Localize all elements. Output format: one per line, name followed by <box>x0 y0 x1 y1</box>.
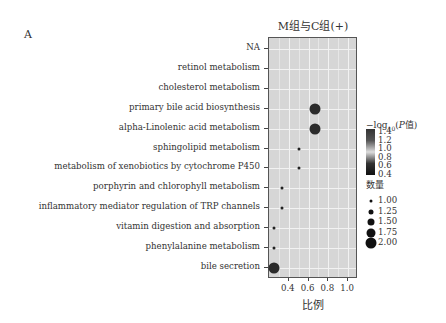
size-legend-label: 1.25 <box>378 206 397 216</box>
size-legend-title: 数量 <box>366 178 384 191</box>
y-tick-label: inflammatory mediator regulation of TRP … <box>39 201 260 211</box>
data-point <box>272 227 275 230</box>
panel-label: A <box>24 28 32 41</box>
y-tick-label: sphingolipid metabolism <box>153 142 260 152</box>
size-legend-dot <box>368 219 375 226</box>
y-tick-label: NA <box>246 42 260 52</box>
vertical-gridline <box>279 38 280 277</box>
data-point <box>310 103 321 114</box>
vertical-gridline <box>299 38 300 277</box>
horizontal-gridline <box>269 49 356 50</box>
size-legend-label: 1.00 <box>378 195 397 205</box>
y-tick-label: cholesterol metabolism <box>158 82 260 92</box>
vertical-gridline <box>318 38 319 277</box>
horizontal-gridline <box>269 149 356 150</box>
size-legend-dot <box>367 228 376 237</box>
horizontal-gridline <box>269 168 356 169</box>
vertical-gridline <box>328 38 329 277</box>
size-legend-label: 2.00 <box>378 237 397 247</box>
y-tick-label: porphyrin and chlorophyll metabolism <box>93 181 260 191</box>
data-point <box>280 207 283 210</box>
plot-area <box>268 37 357 278</box>
vertical-gridline <box>289 38 290 277</box>
colorbar <box>366 129 375 175</box>
horizontal-gridline <box>269 268 356 269</box>
y-tick-label: vitamin digestion and absorption <box>116 221 260 231</box>
data-point <box>280 187 283 190</box>
x-tick-label: 1.0 <box>332 283 362 293</box>
horizontal-gridline <box>269 248 356 249</box>
size-legend-dot <box>366 238 377 249</box>
y-tick-label: phenylalanine metabolism <box>146 241 260 251</box>
data-point <box>272 247 275 250</box>
size-legend-dot <box>370 200 373 203</box>
vertical-gridline <box>309 38 310 277</box>
size-legend-dot <box>369 209 374 214</box>
size-legend-label: 1.50 <box>378 216 397 226</box>
y-tick-label: retinol metabolism <box>178 62 260 72</box>
y-tick-label: bile secretion <box>201 261 260 271</box>
x-tick <box>327 278 328 281</box>
data-point <box>297 167 300 170</box>
y-tick-label: primary bile acid biosynthesis <box>129 102 260 112</box>
x-tick <box>288 278 289 281</box>
y-tick-label: metabolism of xenobiotics by cytochrome … <box>54 161 260 171</box>
y-tick-label: alpha-Linolenic acid metabolism <box>119 122 260 132</box>
data-point <box>268 262 279 273</box>
x-tick <box>308 278 309 281</box>
data-point <box>310 123 321 134</box>
x-axis-title: 比例 <box>268 296 358 312</box>
chart-title: M组与C组(+) <box>268 17 358 33</box>
horizontal-gridline <box>269 228 356 229</box>
horizontal-gridline <box>269 89 356 90</box>
vertical-gridline <box>348 38 349 277</box>
size-legend-label: 1.75 <box>378 227 397 237</box>
horizontal-gridline <box>269 69 356 70</box>
data-point <box>297 147 300 150</box>
x-tick <box>347 278 348 281</box>
vertical-gridline <box>338 38 339 277</box>
